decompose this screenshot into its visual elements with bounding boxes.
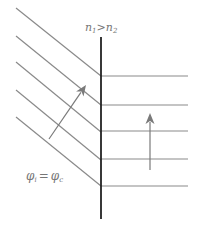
- incident-wavefront-line: [16, 8, 101, 76]
- critical-angle-label: φi=φc: [26, 169, 63, 184]
- incident-wavefront-line: [16, 62, 101, 132]
- incident-wavefront-line: [16, 36, 101, 105]
- critical-angle-diagram: n1>n2 φi=φc: [0, 0, 199, 229]
- refracted-direction-arrow: [146, 113, 155, 170]
- index-relation-label: n1>n2: [85, 21, 118, 35]
- incident-wavefronts: [16, 8, 101, 186]
- refracted-wavefronts: [101, 76, 188, 186]
